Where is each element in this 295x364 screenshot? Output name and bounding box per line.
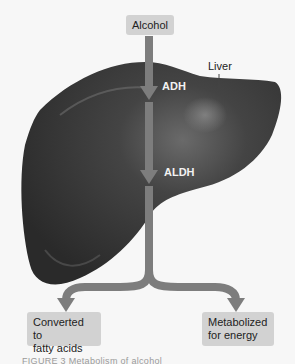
aldh-enzyme-label: ALDH [164,166,195,178]
branch-right-arrow [149,270,236,300]
output-box-energy: Metabolized for energy [202,312,274,346]
output-fatty-acids-line2: fatty acids [33,342,95,355]
output-box-fatty-acids: Converted to fatty acids [27,312,101,346]
adh-enzyme-label: ADH [162,80,186,92]
output-fatty-acids-line1: Converted to [33,316,95,342]
liver-label: Liver [208,60,232,72]
alcohol-input-box: Alcohol [126,15,174,35]
diagram-artwork [0,0,295,364]
figure-caption: FIGURE 3 Metabolism of alcohol [22,356,162,364]
alcohol-label: Alcohol [132,19,168,32]
main-arrow-shaft [145,36,153,86]
alcohol-metabolism-diagram: Alcohol Liver ADH ALDH Converted to fatt… [0,0,295,364]
output-energy-line2: for energy [208,329,268,342]
output-energy-line1: Metabolized [208,316,268,329]
